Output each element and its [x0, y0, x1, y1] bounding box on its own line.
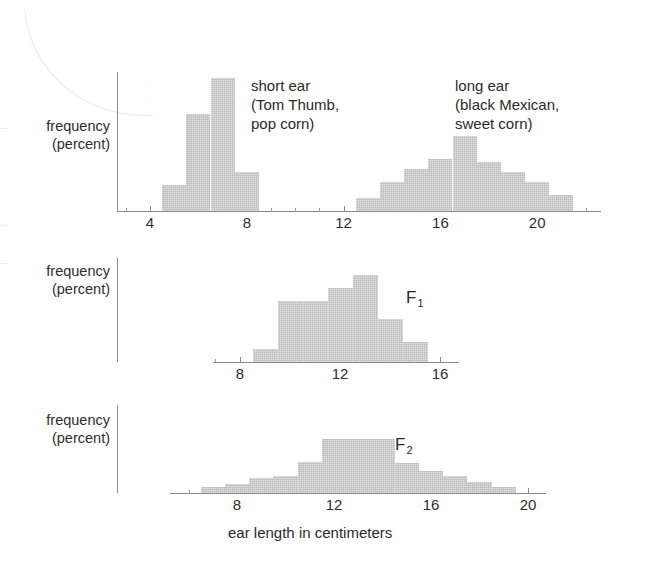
histogram-bar — [453, 136, 477, 211]
y-axis-line-f1 — [117, 258, 118, 362]
histogram-bar — [328, 288, 353, 362]
histogram-bar — [303, 301, 328, 362]
x-axis-major-tick — [528, 488, 529, 494]
histogram-bar — [186, 114, 210, 212]
generation-label-f1: F1 — [406, 288, 423, 308]
x-axis-tick-label: 16 — [420, 366, 460, 381]
scan-artifact-tick — [0, 225, 7, 226]
x-axis-tick-label: 12 — [314, 497, 354, 512]
histogram-bar — [278, 301, 303, 362]
x-axis-minor-tick — [319, 208, 320, 212]
x-axis-tick-label: 8 — [220, 366, 260, 381]
histogram-bar — [201, 487, 225, 493]
y-axis-label-f2: frequency (percent) — [6, 411, 110, 447]
histogram-bar — [162, 185, 186, 211]
histogram-bar — [492, 487, 516, 493]
x-axis-minor-tick — [189, 490, 190, 494]
x-axis-minor-tick — [295, 208, 296, 212]
x-axis-tick-label: 8 — [227, 215, 267, 230]
histogram-bar — [298, 462, 322, 493]
x-axis-tick-label: 16 — [411, 497, 451, 512]
histogram-bar — [428, 159, 452, 211]
generation-label-f2: F2 — [395, 435, 412, 455]
histogram-bar — [419, 471, 443, 493]
x-axis-tick-label: 12 — [324, 215, 364, 230]
histogram-bar — [525, 182, 549, 211]
scan-artifact-curve — [24, 0, 153, 124]
histogram-bar — [249, 478, 273, 493]
x-axis-minor-tick — [271, 208, 272, 212]
histogram-bar — [353, 275, 378, 362]
histogram-bar — [273, 476, 297, 493]
y-axis-line-parental — [117, 72, 118, 211]
histogram-bar — [370, 439, 394, 493]
x-axis-tick-label: 8 — [217, 497, 257, 512]
x-axis-major-tick — [240, 357, 241, 363]
x-axis-major-tick — [150, 206, 151, 212]
y-axis-label-f1: frequency (percent) — [6, 262, 110, 298]
histogram-bar — [467, 482, 491, 493]
histogram-bar — [501, 172, 525, 211]
x-axis-tick-label: 20 — [517, 215, 557, 230]
x-axis-tick-label: 4 — [130, 215, 170, 230]
histogram-bar — [211, 78, 235, 211]
histogram-bar — [380, 182, 404, 211]
x-axis-tick-label: 12 — [320, 366, 360, 381]
x-axis-minor-tick — [126, 208, 127, 212]
histogram-bar — [225, 484, 249, 493]
y-axis-line-f2 — [117, 405, 118, 493]
histogram-bar — [253, 349, 278, 362]
annotation-long-ear: long ear (black Mexican, sweet corn) — [455, 76, 559, 133]
histogram-bar — [403, 342, 428, 362]
x-axis-minor-tick — [215, 359, 216, 363]
histogram-bar — [346, 439, 370, 493]
x-axis-tick-label: 20 — [508, 497, 548, 512]
annotation-short-ear: short ear (Tom Thumb, pop corn) — [251, 76, 339, 133]
x-axis-major-tick — [440, 357, 441, 363]
x-axis-major-tick — [344, 206, 345, 212]
ear-length-figure: frequency (percent) 48121620 short ear (… — [0, 0, 645, 561]
x-axis-line-f1 — [213, 362, 459, 363]
y-axis-label-parental: frequency (percent) — [6, 117, 110, 153]
histogram-bar — [322, 439, 346, 493]
histogram-bar — [378, 319, 403, 362]
histogram-bar — [356, 198, 380, 211]
histogram-bar — [395, 463, 419, 493]
histogram-bar — [477, 162, 501, 211]
x-axis-tick-label: 16 — [420, 215, 460, 230]
histogram-bar — [443, 476, 467, 493]
histogram-bar — [549, 195, 573, 211]
x-axis-line-parental — [117, 211, 601, 212]
x-axis-minor-tick — [586, 208, 587, 212]
histogram-bar — [235, 172, 259, 211]
x-axis-title: ear length in centimeters — [228, 524, 392, 541]
histogram-bar — [404, 169, 428, 211]
